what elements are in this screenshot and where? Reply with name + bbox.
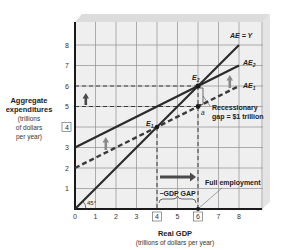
svg-text:5: 5	[176, 213, 180, 220]
recessionary-gap-label-line1: Recessionary	[212, 104, 258, 112]
svg-text:1: 1	[94, 213, 98, 220]
y-axis-subtitle-2: of dollars	[0, 123, 58, 132]
point-e2	[195, 83, 200, 88]
svg-text:7: 7	[65, 62, 69, 69]
svg-text:1: 1	[65, 185, 69, 192]
svg-text:6: 6	[65, 83, 69, 90]
recessionary-gap-label-line2: gap = $1 trillion	[212, 113, 264, 121]
y-axis-label: Aggregate expenditures (trillions of dol…	[0, 96, 58, 141]
svg-text:6: 6	[196, 213, 200, 220]
full-employment-label: Full employment	[205, 179, 261, 187]
angle-label: 45°	[87, 200, 97, 206]
y-axis-subtitle-1: (trillions	[0, 114, 58, 123]
x-axis-subtitle: (trillions of dollars per year)	[90, 238, 260, 247]
svg-text:0: 0	[73, 213, 77, 220]
point-e1	[155, 125, 159, 129]
svg-text:4: 4	[155, 213, 159, 220]
svg-text:3: 3	[65, 144, 69, 151]
label-ae-equals-y: AE = Y	[229, 32, 254, 39]
svg-text:2: 2	[65, 165, 69, 172]
svg-text:8: 8	[237, 213, 241, 220]
point-a	[196, 104, 201, 109]
svg-text:7: 7	[217, 213, 221, 220]
svg-text:8: 8	[65, 42, 69, 49]
svg-text:2: 2	[114, 213, 118, 220]
svg-text:3: 3	[135, 213, 139, 220]
svg-text:5: 5	[65, 103, 69, 110]
x-axis-label: Real GDP (trillions of dollars per year)	[90, 229, 260, 247]
x-axis-title: Real GDP	[90, 229, 260, 238]
y-tick-labels: 1 2 3 4 5 6 7 8	[65, 42, 69, 193]
label-a: a	[201, 109, 205, 116]
panel-bevel-top	[75, 14, 270, 22]
point-full-employment	[196, 207, 200, 211]
gdp-gap-label: −GDP GAP	[159, 190, 196, 197]
svg-text:4: 4	[65, 124, 69, 131]
y-axis-subtitle-3: per year)	[0, 132, 58, 141]
y-axis-title: Aggregate expenditures	[0, 96, 58, 114]
x-tick-labels: 0 1 2 3 4 5 6 7 8	[73, 213, 241, 220]
